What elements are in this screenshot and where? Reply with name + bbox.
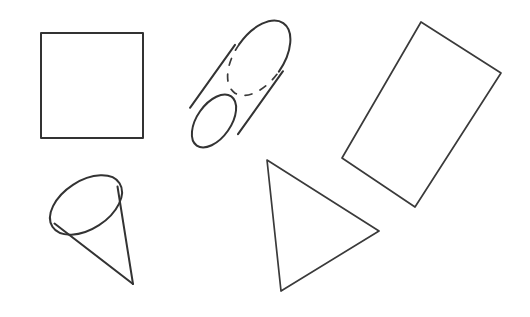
shapes-figure (0, 0, 530, 317)
canvas-background (0, 0, 530, 317)
drawing-canvas (0, 0, 530, 317)
